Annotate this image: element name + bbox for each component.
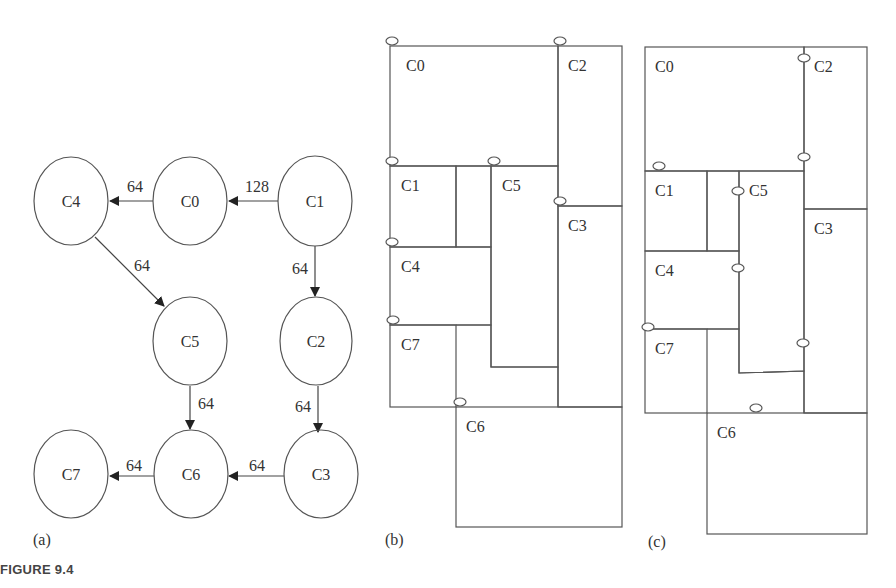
- pin-icon: [798, 153, 810, 161]
- pin-icon: [386, 238, 398, 246]
- block-label-b-c7: C7: [401, 336, 420, 353]
- block-label-c-c3: C3: [814, 220, 833, 237]
- panel-c-labels: C0 C2 C1 C5 C3 C4 C7 C6 (c): [648, 58, 833, 551]
- pin-icon: [488, 157, 500, 165]
- node-label-c1: C1: [306, 193, 325, 210]
- pin-icon: [750, 404, 762, 412]
- block-c-gap1: [707, 171, 739, 251]
- panel-b-labels: C0 C2 C1 C5 C3 C4 C7 C6 (b): [385, 57, 587, 549]
- block-label-c-c6: C6: [717, 424, 736, 441]
- pin-icon: [798, 54, 810, 62]
- panel-c-pins: [642, 54, 810, 412]
- edge-weight-c6-c7: 64: [126, 457, 142, 474]
- pin-icon: [554, 37, 566, 45]
- edge-weight-c1-c2: 64: [292, 260, 308, 277]
- pin-icon: [387, 316, 399, 324]
- pin-icon: [653, 162, 665, 170]
- block-label-c-c5: C5: [749, 182, 768, 199]
- panel-label-b: (b): [385, 531, 404, 549]
- panel-a-labels: C4 C0 C1 C5 C2 C7 C6 C3 128 64 64 64 64 …: [33, 178, 330, 549]
- block-label-b-c5: C5: [502, 177, 521, 194]
- block-label-b-c4: C4: [401, 258, 420, 275]
- node-label-c5: C5: [181, 333, 200, 350]
- block-label-c-c0: C0: [655, 58, 674, 75]
- block-label-c-c1: C1: [655, 182, 674, 199]
- block-label-b-c2: C2: [568, 57, 587, 74]
- node-label-c7: C7: [62, 466, 81, 483]
- block-label-b-c3: C3: [568, 217, 587, 234]
- edge-weight-c4-c5: 64: [134, 257, 150, 274]
- node-label-c3: C3: [312, 466, 331, 483]
- pin-icon: [732, 187, 744, 195]
- block-label-c-c2: C2: [814, 58, 833, 75]
- panel-label-a: (a): [33, 531, 51, 549]
- edge-weight-c0-c4: 64: [127, 178, 143, 195]
- node-label-c0: C0: [181, 193, 200, 210]
- edge-weight-c5-c6: 64: [198, 395, 214, 412]
- edge-weight-c3-c6: 64: [249, 457, 265, 474]
- block-label-c-c7: C7: [655, 340, 674, 357]
- block-c-c5: [739, 171, 804, 373]
- block-label-b-c6: C6: [466, 418, 485, 435]
- panel-label-c: (c): [648, 533, 666, 551]
- panel-c-floorplan: [645, 47, 867, 534]
- block-b-c1: [390, 166, 456, 247]
- block-b-gap1: [456, 166, 491, 247]
- pin-icon: [732, 264, 744, 272]
- block-b-c7: [390, 325, 456, 407]
- block-label-b-c1: C1: [401, 177, 420, 194]
- pin-icon: [386, 37, 398, 45]
- block-c-gap2: [707, 329, 804, 413]
- figure-caption: FIGURE 9.4: [0, 562, 74, 577]
- panel-b-floorplan: [390, 46, 622, 527]
- node-label-c4: C4: [62, 193, 81, 210]
- figure-canvas: C4 C0 C1 C5 C2 C7 C6 C3 128 64 64 64 64 …: [0, 0, 896, 588]
- block-label-b-c0: C0: [406, 57, 425, 74]
- edge-c4-c5: [95, 237, 164, 306]
- edge-weight-c2-c3: 64: [295, 398, 311, 415]
- pin-icon: [454, 398, 466, 406]
- block-b-c3: [558, 206, 622, 407]
- block-b-gap2: [456, 325, 558, 407]
- pin-icon: [797, 339, 809, 347]
- block-c-c3: [804, 209, 867, 413]
- block-b-c5: [491, 166, 558, 367]
- block-label-c-c4: C4: [655, 262, 674, 279]
- node-label-c6: C6: [182, 466, 201, 483]
- pin-icon: [554, 197, 566, 205]
- pin-icon: [386, 157, 398, 165]
- node-label-c2: C2: [307, 333, 326, 350]
- pin-icon: [642, 323, 654, 331]
- edge-weight-c1-c0: 128: [245, 178, 269, 195]
